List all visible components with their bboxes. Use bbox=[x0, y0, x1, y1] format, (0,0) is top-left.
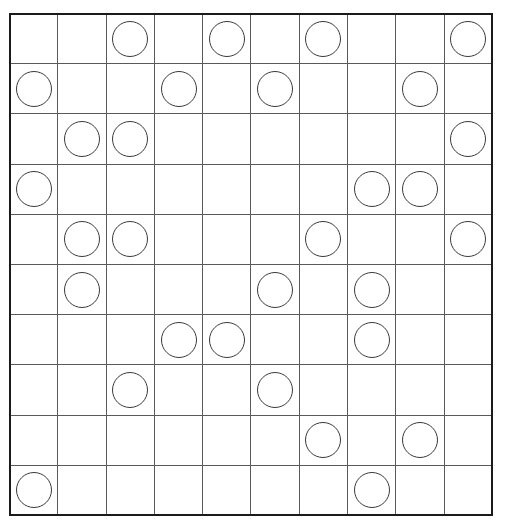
grid-cell-empty[interactable] bbox=[348, 214, 396, 264]
grid-cell-empty[interactable] bbox=[396, 14, 444, 64]
grid-cell-empty[interactable] bbox=[444, 164, 492, 214]
grid-cell-empty[interactable] bbox=[58, 465, 106, 515]
grid-cell-circle[interactable] bbox=[58, 114, 106, 164]
grid-cell-circle[interactable] bbox=[58, 264, 106, 314]
grid-cell-empty[interactable] bbox=[203, 164, 251, 214]
grid-cell-empty[interactable] bbox=[154, 14, 202, 64]
grid-cell-empty[interactable] bbox=[10, 214, 58, 264]
grid-cell-circle[interactable] bbox=[251, 64, 299, 114]
grid-cell-circle[interactable] bbox=[251, 264, 299, 314]
grid-cell-empty[interactable] bbox=[203, 64, 251, 114]
grid-cell-empty[interactable] bbox=[154, 214, 202, 264]
grid-cell-empty[interactable] bbox=[251, 465, 299, 515]
grid-cell-empty[interactable] bbox=[203, 415, 251, 465]
grid-cell-empty[interactable] bbox=[299, 264, 347, 314]
grid-cell-empty[interactable] bbox=[348, 114, 396, 164]
grid-cell-circle[interactable] bbox=[10, 164, 58, 214]
grid-cell-empty[interactable] bbox=[106, 264, 154, 314]
grid-cell-circle[interactable] bbox=[348, 315, 396, 365]
grid-cell-empty[interactable] bbox=[396, 214, 444, 264]
grid-cell-empty[interactable] bbox=[203, 465, 251, 515]
grid-cell-empty[interactable] bbox=[203, 114, 251, 164]
grid-cell-empty[interactable] bbox=[444, 264, 492, 314]
grid-cell-empty[interactable] bbox=[251, 114, 299, 164]
grid-cell-empty[interactable] bbox=[154, 164, 202, 214]
grid-cell-circle[interactable] bbox=[444, 14, 492, 64]
grid-cell-empty[interactable] bbox=[10, 114, 58, 164]
grid-cell-empty[interactable] bbox=[58, 64, 106, 114]
grid-cell-empty[interactable] bbox=[348, 64, 396, 114]
grid-cell-empty[interactable] bbox=[10, 365, 58, 415]
grid-cell-empty[interactable] bbox=[106, 415, 154, 465]
grid-cell-empty[interactable] bbox=[106, 164, 154, 214]
grid-cell-empty[interactable] bbox=[396, 114, 444, 164]
grid-cell-empty[interactable] bbox=[444, 465, 492, 515]
grid-cell-empty[interactable] bbox=[251, 14, 299, 64]
grid-cell-empty[interactable] bbox=[444, 415, 492, 465]
grid-cell-empty[interactable] bbox=[444, 365, 492, 415]
grid-cell-circle[interactable] bbox=[348, 465, 396, 515]
grid-cell-circle[interactable] bbox=[299, 415, 347, 465]
grid-cell-empty[interactable] bbox=[58, 315, 106, 365]
grid-cell-circle[interactable] bbox=[444, 114, 492, 164]
grid-cell-circle[interactable] bbox=[396, 164, 444, 214]
grid-cell-empty[interactable] bbox=[203, 365, 251, 415]
grid-cell-empty[interactable] bbox=[10, 264, 58, 314]
grid-cell-empty[interactable] bbox=[154, 465, 202, 515]
grid-cell-empty[interactable] bbox=[251, 315, 299, 365]
grid-cell-circle[interactable] bbox=[299, 14, 347, 64]
grid-cell-empty[interactable] bbox=[58, 164, 106, 214]
grid-cell-empty[interactable] bbox=[396, 365, 444, 415]
grid-cell-circle[interactable] bbox=[203, 315, 251, 365]
grid-cell-empty[interactable] bbox=[58, 415, 106, 465]
grid-cell-circle[interactable] bbox=[251, 365, 299, 415]
grid-cell-empty[interactable] bbox=[251, 415, 299, 465]
grid-cell-empty[interactable] bbox=[444, 315, 492, 365]
grid-cell-empty[interactable] bbox=[154, 415, 202, 465]
grid-cell-circle[interactable] bbox=[10, 64, 58, 114]
grid-cell-empty[interactable] bbox=[348, 415, 396, 465]
grid-cell-circle[interactable] bbox=[444, 214, 492, 264]
grid-cell-empty[interactable] bbox=[299, 365, 347, 415]
grid-cell-circle[interactable] bbox=[396, 415, 444, 465]
grid-cell-empty[interactable] bbox=[58, 14, 106, 64]
grid-cell-empty[interactable] bbox=[299, 114, 347, 164]
grid-cell-empty[interactable] bbox=[348, 365, 396, 415]
grid-cell-circle[interactable] bbox=[203, 14, 251, 64]
grid-cell-empty[interactable] bbox=[203, 264, 251, 314]
grid-cell-circle[interactable] bbox=[154, 64, 202, 114]
grid-cell-circle[interactable] bbox=[348, 264, 396, 314]
grid-cell-empty[interactable] bbox=[348, 14, 396, 64]
grid-cell-circle[interactable] bbox=[106, 214, 154, 264]
grid-cell-circle[interactable] bbox=[396, 64, 444, 114]
grid-cell-empty[interactable] bbox=[444, 64, 492, 114]
grid-cell-empty[interactable] bbox=[106, 315, 154, 365]
grid-cell-circle[interactable] bbox=[106, 14, 154, 64]
grid-cell-empty[interactable] bbox=[299, 64, 347, 114]
grid-cell-circle[interactable] bbox=[154, 315, 202, 365]
grid-cell-empty[interactable] bbox=[396, 315, 444, 365]
grid-cell-empty[interactable] bbox=[396, 465, 444, 515]
puzzle-grid[interactable] bbox=[9, 13, 493, 516]
grid-cell-circle[interactable] bbox=[106, 365, 154, 415]
grid-cell-empty[interactable] bbox=[299, 315, 347, 365]
grid-cell-empty[interactable] bbox=[106, 64, 154, 114]
grid-cell-empty[interactable] bbox=[10, 315, 58, 365]
grid-cell-empty[interactable] bbox=[251, 214, 299, 264]
grid-cell-empty[interactable] bbox=[154, 114, 202, 164]
grid-cell-empty[interactable] bbox=[299, 164, 347, 214]
grid-cell-circle[interactable] bbox=[299, 214, 347, 264]
grid-cell-empty[interactable] bbox=[396, 264, 444, 314]
grid-cell-empty[interactable] bbox=[58, 365, 106, 415]
grid-cell-empty[interactable] bbox=[251, 164, 299, 214]
grid-cell-empty[interactable] bbox=[203, 214, 251, 264]
grid-cell-circle[interactable] bbox=[106, 114, 154, 164]
grid-cell-empty[interactable] bbox=[154, 365, 202, 415]
grid-cell-empty[interactable] bbox=[299, 465, 347, 515]
grid-cell-circle[interactable] bbox=[348, 164, 396, 214]
grid-cell-circle[interactable] bbox=[58, 214, 106, 264]
grid-cell-empty[interactable] bbox=[154, 264, 202, 314]
grid-cell-circle[interactable] bbox=[10, 465, 58, 515]
grid-cell-empty[interactable] bbox=[10, 415, 58, 465]
grid-cell-empty[interactable] bbox=[10, 14, 58, 64]
